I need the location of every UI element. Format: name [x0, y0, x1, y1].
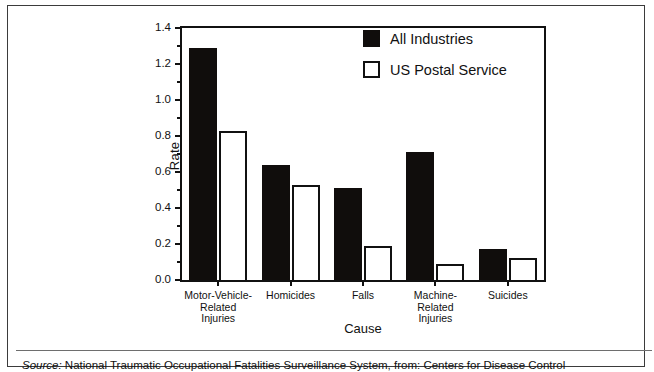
- source-text: National Traumatic Occupational Fataliti…: [62, 359, 566, 371]
- x-axis-title: Cause: [180, 321, 546, 336]
- bar-us-postal-service: [364, 246, 392, 280]
- legend-swatch: [363, 61, 380, 78]
- legend-label: US Postal Service: [390, 62, 507, 78]
- bar-all-industries: [334, 188, 362, 280]
- y-axis-tick-mark: [177, 225, 182, 227]
- legend-swatch: [363, 30, 380, 47]
- x-axis-label-line: Suicides: [465, 290, 551, 302]
- y-axis-tick-label: 1.0: [155, 94, 171, 106]
- x-axis-tick: [434, 280, 436, 286]
- y-axis-tick-mark: [177, 117, 182, 119]
- bar-all-industries: [262, 165, 290, 280]
- bar-us-postal-service: [509, 258, 537, 280]
- source-label: Source:: [22, 359, 62, 371]
- x-axis-tick: [507, 280, 509, 286]
- bar-us-postal-service: [219, 131, 247, 280]
- bar-all-industries: [479, 249, 507, 280]
- x-axis-tick-label: Suicides: [465, 290, 551, 302]
- y-axis-tick-mark: [175, 171, 182, 173]
- bar-all-industries: [189, 48, 217, 280]
- y-axis-tick-mark: [175, 207, 182, 209]
- y-axis-tick-label: 0.4: [155, 202, 171, 214]
- y-axis-tick-mark: [175, 243, 182, 245]
- y-axis-tick-mark: [177, 261, 182, 263]
- y-axis-tick-label: 0.2: [155, 238, 171, 250]
- y-axis-tick-mark: [177, 153, 182, 155]
- bar-all-industries: [406, 152, 434, 280]
- x-axis-tick: [217, 280, 219, 286]
- y-axis-tick-mark: [175, 279, 182, 281]
- y-axis-tick-mark: [175, 63, 182, 65]
- y-axis-tick-mark: [175, 135, 182, 137]
- legend-label: All Industries: [390, 31, 473, 47]
- x-axis-tick: [290, 280, 292, 286]
- y-axis-title: Rate: [167, 96, 182, 216]
- legend-item-us-postal-service: US Postal Service: [363, 61, 507, 78]
- y-axis-tick-mark: [177, 81, 182, 83]
- y-axis-tick-mark: [177, 189, 182, 191]
- y-axis-tick-label: 0.0: [155, 274, 171, 286]
- source-caption: Source: National Traumatic Occupational …: [22, 358, 648, 372]
- y-axis-tick-label: 1.2: [155, 58, 171, 70]
- caption-divider: [16, 350, 652, 351]
- chart-legend: All IndustriesUS Postal Service: [363, 30, 507, 92]
- y-axis-tick-label: 0.8: [155, 130, 171, 142]
- legend-item-all-industries: All Industries: [363, 30, 507, 47]
- figure-card: Rate 0.00.20.40.60.81.01.21.4 Motor-Vehi…: [7, 5, 645, 367]
- y-axis-tick-mark: [175, 99, 182, 101]
- y-axis-tick-mark: [175, 27, 182, 29]
- bar-us-postal-service: [292, 185, 320, 280]
- bar-us-postal-service: [436, 264, 464, 280]
- x-axis-tick: [362, 280, 364, 286]
- y-axis-tick-mark: [177, 45, 182, 47]
- y-axis-tick-label: 1.4: [155, 22, 171, 34]
- y-axis-tick-label: 0.6: [155, 166, 171, 178]
